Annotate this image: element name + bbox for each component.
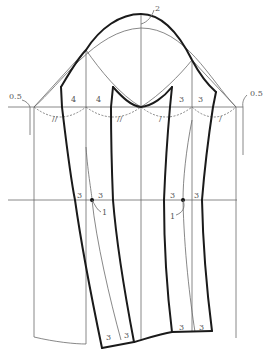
sleeve-pattern-diagram: // // / / 2 0.5 0.5 4 4 3 3 3 3 1 3 3 bbox=[0, 0, 271, 361]
arc-2 bbox=[86, 107, 141, 117]
measurement-labels: 2 0.5 0.5 4 4 3 3 3 3 1 3 3 1 3 3 3 3 bbox=[9, 4, 263, 342]
front-width-label-right: 4 bbox=[96, 95, 101, 104]
underarm-guide-right bbox=[141, 60, 192, 107]
front-elbow-guide bbox=[86, 147, 121, 340]
pattern-outline bbox=[61, 14, 216, 348]
inner-crown-curve bbox=[34, 28, 236, 107]
center-hem-curve bbox=[134, 332, 172, 342]
front-elbow-shift-label: 1 bbox=[102, 208, 107, 217]
back-arc-mark-2: / bbox=[219, 114, 222, 123]
back-elbow-shift-label: 1 bbox=[170, 212, 175, 221]
crown-raise-leader bbox=[141, 10, 154, 24]
arc-1 bbox=[34, 107, 86, 117]
front-arc-mark-2: // bbox=[117, 114, 123, 123]
back-hem-label-a: 3 bbox=[179, 323, 184, 332]
top-sleeve-crown bbox=[61, 14, 216, 92]
back-arc-mark-1: / bbox=[159, 114, 162, 123]
back-seam-inner bbox=[164, 87, 172, 332]
back-elbow-label-a: 3 bbox=[170, 191, 175, 200]
front-hem-label-b: 3 bbox=[124, 331, 129, 340]
front-arc-mark-1: // bbox=[52, 114, 58, 123]
left-ease-label: 0.5 bbox=[9, 92, 22, 101]
back-seam-outer bbox=[202, 92, 216, 331]
back-elbow-guide bbox=[183, 120, 195, 332]
right-ease-leader bbox=[243, 95, 247, 107]
back-hem bbox=[172, 331, 212, 332]
front-elbow-label-b: 3 bbox=[98, 191, 103, 200]
back-elbow-label-b: 3 bbox=[194, 191, 199, 200]
front-hem bbox=[102, 342, 134, 348]
front-seam-outer bbox=[61, 87, 102, 348]
right-ease-label: 0.5 bbox=[250, 89, 263, 98]
front-elbow-label-a: 3 bbox=[77, 191, 82, 200]
back-width-label-left: 3 bbox=[179, 95, 184, 104]
hem-guide-curve bbox=[34, 337, 86, 344]
arc-4 bbox=[192, 107, 236, 117]
underarm-guide-left bbox=[86, 50, 141, 107]
left-ease-leader bbox=[22, 100, 30, 107]
front-hem-label-a: 3 bbox=[106, 333, 111, 342]
front-seam-inner bbox=[111, 87, 134, 342]
back-hem-label-b: 3 bbox=[199, 323, 204, 332]
arc-3 bbox=[141, 107, 192, 117]
front-width-label-left: 4 bbox=[71, 95, 76, 104]
crown-raise-label: 2 bbox=[155, 4, 160, 13]
back-width-label-right: 3 bbox=[198, 95, 203, 104]
